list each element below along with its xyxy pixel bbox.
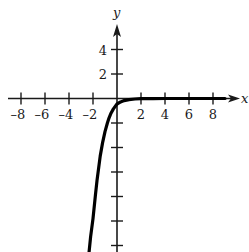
x-tick-label: 4 bbox=[161, 107, 169, 122]
y-tick-label: 4 bbox=[99, 43, 107, 58]
x-tick-label: 6 bbox=[185, 107, 193, 122]
data-curve bbox=[89, 99, 225, 252]
x-tick-label: –2 bbox=[83, 107, 98, 122]
x-tick-label: –8 bbox=[11, 107, 26, 122]
axes bbox=[8, 24, 240, 252]
y-axis-label: y bbox=[112, 5, 121, 20]
x-tick-label: –6 bbox=[35, 107, 50, 122]
x-tick-label: –4 bbox=[59, 107, 74, 122]
x-axis-label: x bbox=[241, 91, 249, 106]
chart-canvas: –8–6–4–2246842 x y bbox=[0, 0, 249, 252]
x-tick-label: 8 bbox=[209, 107, 217, 122]
y-tick-label: 2 bbox=[99, 67, 107, 82]
x-tick-label: 2 bbox=[137, 107, 145, 122]
